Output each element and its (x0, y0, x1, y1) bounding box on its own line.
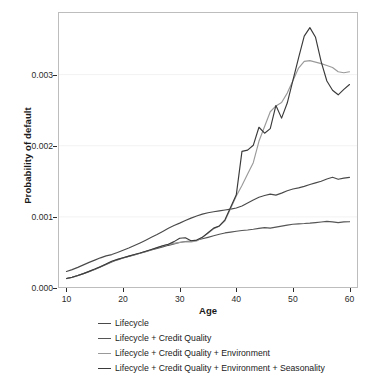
legend-item-0: Lifecycle (98, 316, 381, 331)
plot-frame (59, 13, 358, 288)
legend-item-label: Lifecycle (115, 318, 149, 329)
y-tick-label-2: 0.002 (7, 141, 53, 151)
legend-item-1: Lifecycle + Credit Quality (98, 331, 381, 346)
series-line-3 (66, 28, 349, 279)
x-tick-mark-3 (236, 288, 237, 292)
y-tick-mark-3 (53, 75, 57, 76)
x-tick-mark-1 (123, 288, 124, 292)
legend-item-2: Lifecycle + Credit Quality + Environment (98, 346, 381, 361)
x-tick-mark-0 (66, 288, 67, 292)
x-tick-label-2: 30 (160, 294, 200, 304)
x-tick-label-4: 50 (273, 294, 313, 304)
x-tick-mark-2 (180, 288, 181, 292)
x-tick-label-0: 10 (46, 294, 86, 304)
legend-item-3: Lifecycle + Credit Quality + Environment… (98, 361, 381, 376)
legend-line-icon (98, 363, 111, 374)
y-tick-label-3: 0.003 (7, 70, 53, 80)
legend-line-icon (98, 348, 111, 359)
x-tick-label-1: 20 (103, 294, 143, 304)
series-line-0 (66, 177, 349, 271)
series-line-2 (66, 61, 349, 279)
series-line-1 (66, 221, 349, 278)
x-axis-title: Age (58, 305, 358, 316)
chart-legend: LifecycleLifecycle + Credit QualityLifec… (98, 316, 381, 376)
legend-item-label: Lifecycle + Credit Quality + Environment (115, 348, 270, 359)
x-tick-mark-4 (293, 288, 294, 292)
y-tick-label-1: 0.001 (7, 212, 53, 222)
x-tick-mark-5 (350, 288, 351, 292)
legend-line-icon (98, 318, 111, 329)
chart-figure: Probability of default 0.0000.0010.0020.… (0, 0, 381, 383)
legend-line-icon (98, 333, 111, 344)
plot-area (58, 12, 358, 288)
plot-svg (58, 12, 358, 288)
y-tick-mark-2 (53, 146, 57, 147)
y-axis-tick-labels: 0.0000.0010.0020.003 (0, 0, 53, 383)
legend-item-label: Lifecycle + Credit Quality + Environment… (115, 363, 325, 374)
y-tick-mark-0 (53, 288, 57, 289)
x-tick-label-5: 60 (330, 294, 370, 304)
x-tick-label-3: 40 (216, 294, 256, 304)
y-tick-mark-1 (53, 217, 57, 218)
legend-item-label: Lifecycle + Credit Quality (115, 333, 211, 344)
